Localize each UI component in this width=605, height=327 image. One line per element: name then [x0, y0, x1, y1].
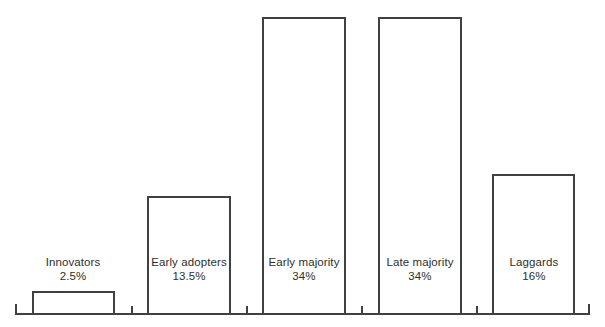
category-name: Early adopters	[129, 255, 249, 269]
bar-innovators	[32, 291, 115, 313]
axis-tick-left-end	[15, 304, 17, 314]
bar-label-early-adopters: Early adopters 13.5%	[129, 255, 249, 283]
category-name: Early majority	[244, 255, 364, 269]
axis-tick-2	[246, 306, 248, 314]
bar-label-early-majority: Early majority 34%	[244, 255, 364, 283]
category-name: Laggards	[474, 255, 594, 269]
adoption-lifecycle-bar-chart: Innovators 2.5% Early adopters 13.5% Ear…	[0, 0, 605, 327]
bar-label-laggards: Laggards 16%	[474, 255, 594, 283]
category-percent: 34%	[244, 269, 364, 283]
category-percent: 2.5%	[13, 269, 133, 283]
axis-tick-3	[361, 306, 363, 314]
category-percent: 13.5%	[129, 269, 249, 283]
category-percent: 16%	[474, 269, 594, 283]
bar-laggards	[492, 174, 575, 313]
category-name: Late majority	[360, 255, 480, 269]
bar-label-late-majority: Late majority 34%	[360, 255, 480, 283]
x-axis-baseline	[15, 313, 590, 315]
bar-label-innovators: Innovators 2.5%	[13, 255, 133, 283]
axis-tick-1	[131, 306, 133, 314]
axis-tick-4	[476, 306, 478, 314]
axis-tick-right-end	[588, 304, 590, 314]
category-name: Innovators	[13, 255, 133, 269]
category-percent: 34%	[360, 269, 480, 283]
